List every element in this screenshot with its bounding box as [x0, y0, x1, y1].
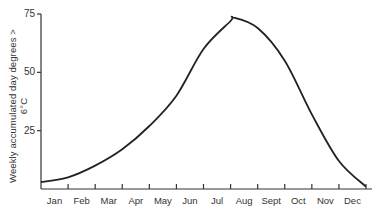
chart-svg: [0, 0, 385, 217]
axes: [37, 14, 372, 189]
data-curve: [41, 17, 366, 187]
y-axis-label: Weekly accumulated day degrees > 6°C: [7, 21, 29, 191]
chart: Weekly accumulated day degrees > 6°C 255…: [0, 0, 385, 217]
y-tick-label: 75: [13, 8, 35, 19]
x-tick-label: Dec: [335, 195, 369, 206]
y-tick-label: 50: [13, 66, 35, 77]
y-tick-label: 25: [13, 125, 35, 136]
